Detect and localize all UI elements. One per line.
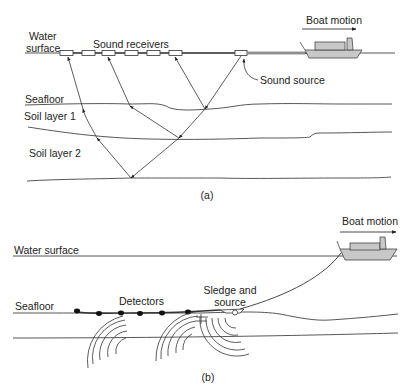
detectors-label: Detectors (119, 295, 164, 307)
water-surface-label-b: Water surface (14, 244, 79, 256)
detector (96, 311, 102, 316)
seafloor-label-b: Seafloor (15, 300, 54, 312)
sound-source-label: Sound source (260, 74, 325, 86)
soil-layer-1-label: Soil layer 1 (24, 110, 76, 122)
sound-receivers-label: Sound receivers (93, 38, 169, 50)
boat-a-icon (300, 38, 362, 58)
sound-source-box (235, 51, 247, 56)
soil-layer-2-label: Soil layer 2 (29, 147, 81, 159)
seafloor-line-b (13, 312, 398, 320)
water-surface-label-a-line1: Water (29, 30, 57, 42)
panel-a-caption: (a) (196, 189, 218, 201)
sound-source-callout (244, 59, 258, 80)
subsurface-line-b (13, 333, 398, 338)
receiver (169, 51, 182, 56)
receiver (125, 51, 138, 56)
boat-b-icon (337, 237, 397, 260)
left-wavefronts (87, 316, 127, 368)
panel-b-caption: (b) (197, 371, 219, 383)
soil-layer-2-boundary (27, 177, 391, 181)
sledge-label-line2: source (203, 296, 257, 308)
detector (118, 311, 124, 316)
boat-motion-label-b: Boat motion (342, 215, 398, 227)
detector (74, 309, 80, 314)
sledge-label-line1: Sledge and (203, 284, 257, 296)
receiver (147, 51, 160, 56)
soil-layer-1-boundary (28, 127, 392, 139)
source-wavefronts (196, 314, 249, 356)
receiver (102, 51, 115, 56)
ray-paths (68, 56, 241, 178)
detector (137, 311, 143, 316)
detector (159, 311, 165, 316)
middle-wavefronts (156, 311, 199, 361)
boat-motion-label-a: Boat motion (306, 14, 362, 26)
seafloor-label-a: Seafloor (25, 93, 64, 105)
receiver (60, 51, 73, 56)
water-surface-label-a-line2: surface (26, 42, 60, 54)
receiver (82, 51, 95, 56)
source-icon (233, 310, 238, 315)
